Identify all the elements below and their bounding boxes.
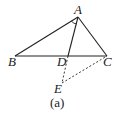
angle-mark-A (71, 21, 76, 24)
geometry-figure: A B D C E (a) (0, 0, 119, 115)
point-label-B: B (8, 54, 16, 69)
segment-AC (78, 17, 107, 56)
point-label-C: C (103, 54, 112, 69)
segment-EC-dashed (62, 56, 107, 83)
segment-AB (15, 17, 78, 56)
figure-caption: (a) (50, 95, 64, 110)
point-label-E: E (53, 81, 62, 96)
point-label-D: D (56, 54, 67, 69)
point-label-A: A (73, 2, 82, 17)
